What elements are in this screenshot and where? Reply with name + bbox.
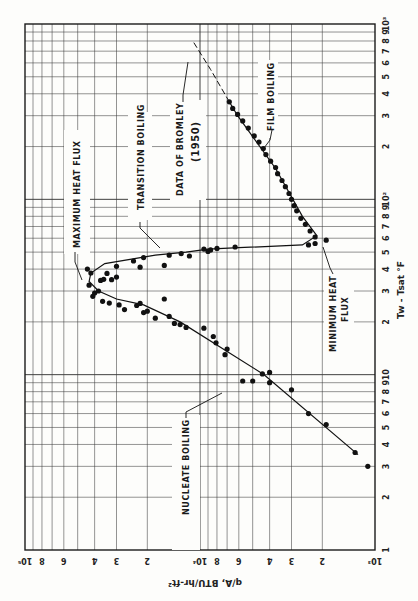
data-point: [233, 244, 238, 249]
x-tick-label: 8: [382, 388, 391, 394]
data-point: [256, 140, 261, 145]
x-tick-label: 5: [382, 424, 391, 430]
x-tick-label: 6: [382, 235, 391, 241]
x-tick-label: 10²: [382, 192, 391, 207]
data-point: [109, 277, 114, 282]
data-point: [227, 99, 232, 104]
data-point: [298, 216, 303, 221]
data-point: [240, 118, 245, 123]
annotation-minimum-heat-flux-2: FLUX: [341, 296, 350, 322]
annotation-minimum-heat-flux: MINIMUM HEAT: [329, 276, 338, 352]
x-axis-label: Tw - Tsat °F: [396, 261, 406, 319]
x-tick-label: 7: [382, 399, 391, 405]
data-point: [122, 307, 127, 312]
annotation-film-boiling: FILM BOILING: [267, 62, 276, 131]
y-tick-label: 10⁴: [192, 556, 207, 565]
x-tick-label: 6: [382, 60, 391, 66]
y-tick-label: 6: [61, 556, 67, 565]
bromley-dashed-line: [193, 41, 230, 102]
data-point: [101, 277, 106, 282]
data-point: [261, 146, 266, 151]
data-point: [208, 247, 213, 252]
data-point: [107, 301, 112, 306]
data-point: [162, 296, 167, 301]
data-point: [230, 106, 235, 111]
data-point: [324, 422, 329, 427]
data-point: [179, 251, 184, 256]
annotation-maximum-heat-flux: MAXIMUM HEAT FLUX: [73, 140, 82, 248]
data-point: [114, 264, 119, 269]
data-point: [286, 191, 291, 196]
data-point: [283, 184, 288, 189]
y-tick-label: 4: [266, 556, 272, 565]
data-point: [246, 126, 251, 131]
y-tick-label: 6: [236, 556, 242, 565]
data-point: [187, 253, 192, 258]
data-point: [131, 258, 136, 263]
data-point: [263, 152, 268, 157]
leader-max: [75, 252, 82, 280]
x-tick-label: 4: [382, 266, 391, 272]
data-point: [275, 171, 280, 176]
data-point: [273, 165, 278, 170]
y-tick-label: 3: [114, 556, 120, 565]
x-tick-label: 7: [382, 48, 391, 54]
data-point: [167, 314, 172, 319]
data-point: [138, 265, 143, 270]
data-point: [313, 234, 318, 239]
y-tick-label: 8: [39, 556, 45, 565]
y-tick-label: 10⁵: [17, 556, 32, 565]
annotation-data-of-bromley: DATA OF BROMLEY: [176, 103, 185, 196]
data-point: [240, 378, 245, 383]
annotation-bromley-year: (1950): [190, 121, 201, 162]
data-point: [178, 322, 183, 327]
data-point: [306, 411, 311, 416]
x-tick-label: 3: [382, 288, 391, 294]
y-tick-label: 2: [320, 556, 326, 565]
data-point: [260, 371, 265, 376]
y-tick-label: 8: [214, 556, 220, 565]
x-tick-label: 5: [382, 249, 391, 255]
data-point: [172, 321, 177, 326]
data-point: [250, 378, 255, 383]
x-tick-label: 6: [382, 410, 391, 416]
x-tick-label: 3: [382, 113, 391, 119]
data-point: [313, 241, 318, 246]
leader-bromley: [183, 62, 188, 102]
data-point: [268, 159, 273, 164]
data-point: [184, 325, 189, 330]
data-point: [292, 203, 297, 208]
annotation-transition-boiling: TRANSITION BOILING: [137, 104, 146, 210]
data-point: [96, 288, 101, 293]
data-point: [235, 112, 240, 117]
leader-nucleate: [186, 393, 222, 418]
x-tick-label: 3: [382, 464, 391, 470]
x-tick-label: 4: [382, 441, 391, 447]
data-point: [294, 208, 299, 213]
data-point: [201, 326, 206, 331]
data-point: [222, 352, 227, 357]
x-tick-label: 4: [382, 91, 391, 97]
data-point: [104, 271, 109, 276]
data-point: [88, 270, 93, 275]
data-point: [162, 263, 167, 268]
x-tick-label: 7: [382, 224, 391, 230]
data-point: [279, 178, 284, 183]
x-tick-label: 2: [382, 319, 391, 325]
data-point: [85, 267, 90, 272]
data-point: [225, 346, 230, 351]
data-point: [308, 228, 313, 233]
data-point: [145, 309, 150, 314]
x-tick-label: 5: [382, 74, 391, 80]
x-tick-label: 8: [382, 38, 391, 44]
data-point: [214, 246, 219, 251]
leader-min: [323, 247, 333, 274]
y-tick-label: 4: [91, 556, 97, 565]
annotation-nucleate-boiling: NUCLEATE BOILING: [182, 419, 191, 515]
leader-transition: [140, 222, 160, 248]
data-point: [252, 133, 257, 138]
data-point: [289, 387, 294, 392]
data-point: [138, 301, 143, 306]
data-point: [213, 340, 218, 345]
x-tick-labels: 123456789102345678910²2345678910³: [382, 16, 391, 553]
